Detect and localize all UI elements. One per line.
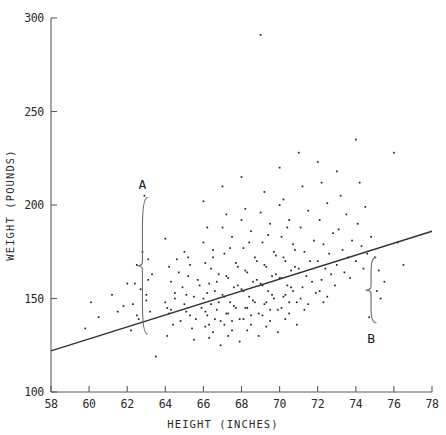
data-point: [241, 176, 243, 178]
data-point: [403, 264, 405, 266]
data-point: [178, 272, 180, 274]
data-point: [155, 356, 157, 358]
data-point: [222, 294, 224, 296]
data-point: [216, 281, 218, 283]
data-point: [239, 318, 241, 320]
data-point: [184, 251, 186, 253]
data-point: [292, 290, 294, 292]
data-point: [294, 266, 296, 268]
y-tick-label-150: 150: [24, 292, 44, 306]
data-point: [384, 281, 386, 283]
data-point: [338, 229, 340, 231]
data-point: [187, 257, 189, 259]
weight-vs-height-scatter-chart: 100150200250300 5860626466687072747678 A…: [0, 0, 446, 435]
data-point: [288, 301, 290, 303]
data-point: [264, 191, 266, 193]
data-point: [197, 279, 199, 281]
data-point: [281, 236, 283, 238]
data-point: [250, 230, 252, 232]
data-point: [206, 292, 208, 294]
data-point: [203, 298, 205, 300]
data-point: [180, 320, 182, 322]
data-point: [214, 318, 216, 320]
data-point: [393, 152, 395, 154]
data-point: [147, 258, 149, 260]
data-point: [166, 335, 168, 337]
data-point: [185, 294, 187, 296]
data-point: [262, 315, 264, 317]
data-point: [368, 316, 370, 318]
data-point: [185, 311, 187, 313]
data-point: [187, 275, 189, 277]
data-point: [199, 285, 201, 287]
data-point: [290, 270, 292, 272]
data-point: [218, 301, 220, 303]
data-point: [130, 329, 132, 331]
data-point: [258, 313, 260, 315]
data-point: [182, 286, 184, 288]
data-point: [147, 279, 149, 281]
data-point: [376, 290, 378, 292]
data-point: [239, 341, 241, 343]
data-point: [227, 313, 229, 315]
data-point: [300, 227, 302, 229]
data-point: [252, 281, 254, 283]
data-point: [330, 273, 332, 275]
data-point: [237, 285, 239, 287]
data-point: [229, 301, 231, 303]
data-point: [264, 303, 266, 305]
data-point: [205, 262, 207, 264]
data-point: [256, 260, 258, 262]
data-point: [165, 238, 167, 240]
x-tick-label-64: 64: [159, 397, 173, 411]
data-point: [262, 242, 264, 244]
data-point: [151, 273, 153, 275]
data-point: [380, 298, 382, 300]
data-point: [311, 281, 313, 283]
data-point: [344, 272, 346, 274]
data-point: [277, 309, 279, 311]
data-point: [323, 243, 325, 245]
x-tick-label-66: 66: [197, 397, 211, 411]
data-point: [224, 324, 226, 326]
data-point: [315, 292, 317, 294]
data-point: [191, 328, 193, 330]
data-point: [245, 208, 247, 210]
data-point: [174, 298, 176, 300]
data-point: [271, 275, 273, 277]
data-point: [290, 286, 292, 288]
data-point: [296, 301, 298, 303]
data-point: [298, 268, 300, 270]
data-point: [195, 318, 197, 320]
data-point: [288, 313, 290, 315]
data-point: [300, 298, 302, 300]
x-tick-label-70: 70: [273, 397, 287, 411]
data-point: [235, 307, 237, 309]
y-axis-title: WEIGHT (POUNDS): [4, 149, 16, 260]
data-point: [321, 182, 323, 184]
data-point: [145, 300, 147, 302]
data-point: [283, 257, 285, 259]
data-point: [302, 286, 304, 288]
data-point: [248, 242, 250, 244]
data-point: [233, 286, 235, 288]
y-tick-label-100: 100: [24, 385, 44, 399]
data-point: [286, 285, 288, 287]
data-point: [222, 227, 224, 229]
data-point: [325, 268, 327, 270]
data-point: [210, 303, 212, 305]
data-point: [166, 307, 168, 309]
data-point: [84, 328, 86, 330]
data-point: [302, 186, 304, 188]
data-point: [144, 195, 146, 197]
data-point: [90, 301, 92, 303]
data-point: [258, 335, 260, 337]
data-point: [246, 272, 248, 274]
x-tick-label-76: 76: [387, 397, 401, 411]
x-tick-label-74: 74: [349, 397, 363, 411]
data-point: [225, 275, 227, 277]
data-point: [206, 315, 208, 317]
data-point: [117, 311, 119, 313]
chart-background: [0, 0, 446, 435]
data-point: [269, 223, 271, 225]
